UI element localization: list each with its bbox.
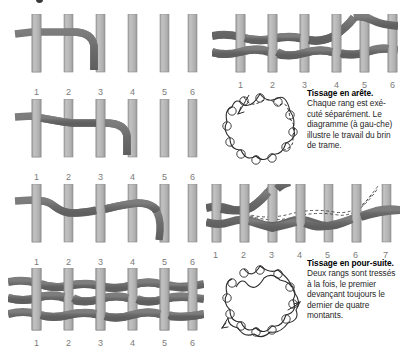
post-label: 6	[190, 172, 195, 182]
weft-strand	[15, 14, 94, 72]
direction-arrow-left	[222, 318, 228, 328]
post-label: 2	[66, 87, 71, 97]
post-label: 5	[162, 87, 167, 97]
post-label: 1	[34, 257, 39, 267]
caption-arete-body: Chaque rang est exé-cuté séparément. Le …	[307, 98, 392, 150]
post-label: 2	[66, 257, 71, 267]
post-label: 2	[66, 338, 71, 348]
posts-group	[32, 99, 197, 157]
posts-group	[32, 184, 197, 242]
caption-poursuite-body: Deux rangs sont tressés à la fois, le pr…	[307, 268, 395, 320]
post-labels-row: 1 2 3 4 5 6	[8, 338, 204, 351]
panel-step-1-weave: 1 2 3 4 5 6	[14, 14, 200, 100]
panel-step-3-weave: 1 2 3 4 5 6	[14, 184, 200, 270]
post-labels-row: 1 2 3 4 5 6	[14, 171, 200, 185]
weft-strand	[15, 184, 169, 242]
post-label: 5	[162, 338, 167, 348]
post-label: 4	[130, 87, 135, 97]
post-label: 4	[130, 172, 135, 182]
post-label: 3	[98, 87, 103, 97]
panel-arete-weave: 1 2 3 4 5 6	[212, 14, 398, 94]
posts-group	[32, 14, 197, 72]
stake-circles	[223, 94, 297, 164]
post-label: 5	[162, 257, 167, 267]
post-label: 5	[162, 172, 167, 182]
panel-arete-circular-diagram	[214, 88, 306, 174]
post-label: 6	[190, 338, 195, 348]
post-labels-row: 1 2 3 4 5 6	[14, 86, 200, 100]
caption-arete: Tissage en arête. Chaque rang est exé-cu…	[307, 88, 399, 150]
post-label: 1	[34, 87, 39, 97]
post-label: 3	[98, 172, 103, 182]
post-label: 4	[130, 257, 135, 267]
post-label: 2	[66, 172, 71, 182]
caption-poursuite: Tissage en pour-suite. Deux rangs sont t…	[307, 258, 399, 320]
caption-poursuite-heading: Tissage en pour-suite.	[307, 258, 394, 268]
post-label: 3	[98, 257, 103, 267]
panel-finished-weave: 1 2 3 4 5 6	[8, 268, 204, 351]
panel-poursuite-weave: 1 2 3 4 5 6 7	[206, 184, 400, 264]
panel-poursuite-circular-diagram	[214, 258, 306, 348]
weaving-instruction-figure: 1 2 3 4 5 6	[0, 0, 401, 351]
post-label: 6	[190, 87, 195, 97]
post-label: 1	[34, 172, 39, 182]
crop-artifact-dot	[36, 0, 43, 3]
post-label: 4	[130, 338, 135, 348]
panel-step-2-weave: 1 2 3 4 5 6	[14, 99, 200, 185]
caption-arete-heading: Tissage en arête.	[307, 88, 373, 98]
post-label: 1	[34, 338, 39, 348]
post-label: 3	[98, 338, 103, 348]
post-label: 6	[190, 257, 195, 267]
